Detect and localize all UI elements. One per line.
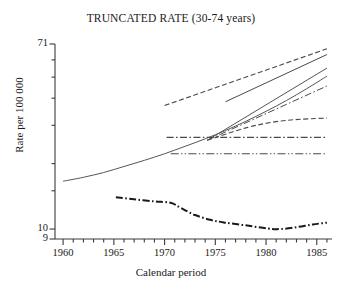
x-tick-label: 1980 [241,247,291,258]
x-tick-label: 1960 [38,247,88,258]
x-tick-label: 1985 [292,247,342,258]
chart-figure: TRUNCATED RATE (30-74 years) Rate per 10… [0,0,342,292]
x-tick-label: 1970 [140,247,190,258]
x-tick-label: 1965 [89,247,139,258]
y-tick-label: 9 [14,232,48,243]
x-tick-label: 1975 [190,247,240,258]
series-observed-rate-thick-dashdot [116,197,327,229]
series-projection-steep-dashdot [207,86,327,140]
series-projection-upper-solid [225,55,326,102]
y-tick-label: 71 [14,37,48,48]
series-projection-steep-solid [207,68,327,140]
